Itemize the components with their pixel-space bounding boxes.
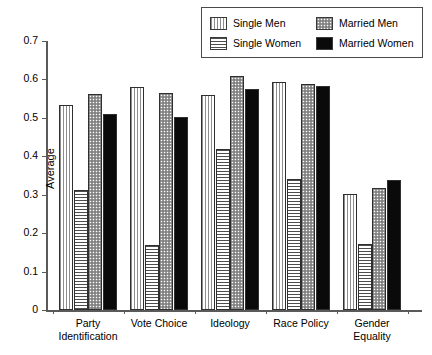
x-tick (266, 310, 267, 314)
bar (130, 87, 144, 310)
y-tick-0.5: 0.5 (42, 118, 46, 119)
y-tick-label: 0 (32, 303, 38, 316)
y-tick-label: 0.1 (23, 265, 38, 278)
x-axis-line (46, 310, 422, 312)
bar (287, 179, 301, 310)
y-tick-label: 0.2 (23, 226, 38, 239)
bar (201, 95, 215, 310)
plot-area: 00.10.20.30.40.50.60.7 Average (46, 41, 421, 310)
legend-label-single-men: Single Men (233, 17, 286, 29)
bar (372, 188, 386, 310)
bar (145, 245, 159, 310)
bar (230, 76, 244, 310)
x-tick (124, 310, 125, 314)
bar (316, 86, 330, 310)
legend-label-married-men: Married Men (339, 17, 398, 29)
bar (59, 105, 73, 310)
x-tick (337, 310, 338, 314)
y-tick-0: 0 (42, 310, 46, 311)
bar (387, 180, 401, 310)
legend-entry-married-men: Married Men (316, 17, 426, 30)
x-tick (53, 310, 54, 314)
y-axis-label: Average (44, 148, 56, 189)
y-tick-0.6: 0.6 (42, 79, 46, 80)
y-tick-0.3: 0.3 (42, 195, 46, 196)
bar (174, 117, 188, 310)
y-tick-0.1: 0.1 (42, 272, 46, 273)
y-tick-label: 0.5 (23, 111, 38, 124)
x-axis-group-label: Gender Equality (327, 317, 417, 342)
legend-swatch-married-men-icon (316, 17, 333, 30)
legend-swatch-single-men-icon (210, 17, 227, 30)
y-tick-label: 0.3 (23, 188, 38, 201)
bar (88, 94, 102, 310)
y-tick-label: 0.6 (23, 72, 38, 85)
bar (159, 93, 173, 310)
bar (343, 194, 357, 310)
bar (301, 84, 315, 310)
bar (216, 149, 230, 310)
bar (103, 114, 117, 310)
x-tick (408, 310, 409, 314)
y-tick-0.7: 0.7 (42, 41, 46, 42)
bar (358, 244, 372, 310)
y-tick-label: 0.7 (23, 34, 38, 47)
bar (74, 190, 88, 310)
bar (272, 82, 286, 310)
legend-entry-single-men: Single Men (210, 17, 316, 30)
y-tick-label: 0.4 (23, 149, 38, 162)
bar-chart-figure: Single Men Married Men Single Women Marr… (0, 0, 432, 355)
bar (245, 89, 259, 310)
y-tick-0.2: 0.2 (42, 233, 46, 234)
x-tick (195, 310, 196, 314)
